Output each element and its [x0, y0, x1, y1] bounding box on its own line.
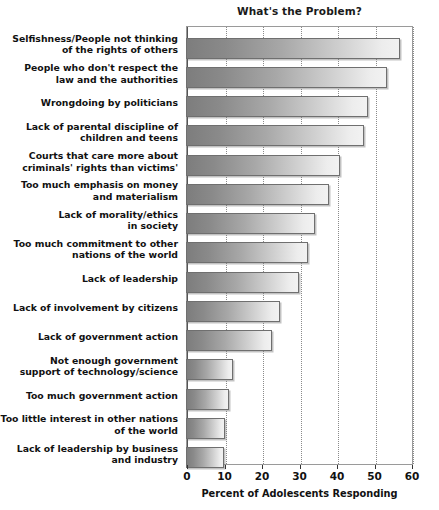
x-tick-mark: [337, 465, 338, 469]
category-label-line: children and teens: [0, 132, 178, 144]
category-label-line: Too little interest in other nations: [0, 413, 178, 425]
category-label: Selfishness/People not thinkingof the ri…: [0, 33, 182, 56]
category-label-line: Too much emphasis on money: [0, 179, 178, 191]
bar: [186, 301, 280, 322]
category-label: Too much commitment to othernations of t…: [0, 238, 182, 261]
x-tick-mark: [225, 465, 226, 469]
category-label-line: Too much government action: [0, 390, 178, 402]
category-label: Lack of leadership by businessand indust…: [0, 443, 182, 466]
bar: [186, 330, 272, 351]
category-label-line: of the world: [0, 425, 178, 437]
category-label: Lack of parental discipline ofchildren a…: [0, 121, 182, 144]
category-label-line: law and the authorities: [0, 74, 178, 86]
category-label-line: Selfishness/People not thinking: [0, 33, 178, 45]
bar-row: [186, 268, 413, 297]
bar: [186, 184, 329, 205]
bar: [186, 418, 225, 439]
bar-row: [186, 151, 413, 180]
bar-row: [186, 326, 413, 355]
x-tick-label: 50: [360, 470, 390, 482]
category-label-line: Lack of leadership: [0, 273, 178, 285]
category-label: Courts that care more aboutcriminals' ri…: [0, 150, 182, 173]
bar-row: [186, 92, 413, 121]
bars-layer: [186, 26, 413, 465]
bar: [186, 242, 308, 263]
category-label-line: in society: [0, 220, 178, 232]
category-label-line: Courts that care more about: [0, 150, 178, 162]
category-label-line: and industry: [0, 454, 178, 466]
category-label-line: criminals' rights than victims': [0, 162, 178, 174]
bar: [186, 67, 387, 88]
category-label: Too much emphasis on moneyand materialis…: [0, 179, 182, 202]
category-label: Lack of morality/ethicsin society: [0, 209, 182, 232]
x-axis: 0102030405060: [186, 465, 413, 487]
gridline-60: [413, 27, 414, 464]
bar-row: [186, 297, 413, 326]
x-tick-label: 10: [210, 470, 240, 482]
category-label: Too little interest in other nationsof t…: [0, 413, 182, 436]
category-label: Too much government action: [0, 390, 182, 402]
category-label-line: Lack of leadership by business: [0, 443, 178, 455]
category-label-line: Not enough government: [0, 355, 178, 367]
category-label: Lack of government action: [0, 331, 182, 343]
x-tick-mark: [262, 465, 263, 469]
x-tick-mark: [412, 465, 413, 469]
bar-row: [186, 121, 413, 150]
x-tick-mark: [187, 465, 188, 469]
category-label: People who don't respect thelaw and the …: [0, 62, 182, 85]
category-label-line: of the rights of others: [0, 44, 178, 56]
category-label-line: Lack of government action: [0, 331, 178, 343]
category-label-line: and materialism: [0, 191, 178, 203]
bar-chart: What's the Problem? Selfishness/People n…: [0, 0, 439, 510]
category-labels: Selfishness/People not thinkingof the ri…: [0, 26, 182, 465]
bar: [186, 389, 229, 410]
bar-row: [186, 355, 413, 384]
bar-row: [186, 34, 413, 63]
x-tick-mark: [375, 465, 376, 469]
x-tick-label: 60: [397, 470, 427, 482]
category-label-line: Wrongdoing by politicians: [0, 97, 178, 109]
bar: [186, 96, 368, 117]
x-tick-label: 30: [285, 470, 315, 482]
bar-row: [186, 385, 413, 414]
x-axis-title: Percent of Adolescents Responding: [186, 488, 413, 499]
category-label-line: support of technology/science: [0, 366, 178, 378]
category-label-line: Too much commitment to other: [0, 238, 178, 250]
category-label-line: Lack of morality/ethics: [0, 209, 178, 221]
bar-row: [186, 238, 413, 267]
bar-row: [186, 63, 413, 92]
category-label: Wrongdoing by politicians: [0, 97, 182, 109]
category-label-line: People who don't respect the: [0, 62, 178, 74]
bar: [186, 38, 400, 59]
category-label: Lack of involvement by citizens: [0, 302, 182, 314]
category-label-line: Lack of involvement by citizens: [0, 302, 178, 314]
x-tick-label: 0: [172, 470, 202, 482]
chart-title: What's the Problem?: [186, 5, 413, 17]
category-label: Not enough governmentsupport of technolo…: [0, 355, 182, 378]
category-label: Lack of leadership: [0, 273, 182, 285]
bar: [186, 125, 364, 146]
x-tick-label: 40: [322, 470, 352, 482]
x-tick-label: 20: [247, 470, 277, 482]
bar: [186, 155, 340, 176]
category-label-line: Lack of parental discipline of: [0, 121, 178, 133]
bar-row: [186, 209, 413, 238]
bar-row: [186, 414, 413, 443]
bar: [186, 359, 233, 380]
x-tick-mark: [300, 465, 301, 469]
category-label-line: nations of the world: [0, 249, 178, 261]
bar: [186, 272, 299, 293]
bar: [186, 213, 315, 234]
bar-row: [186, 180, 413, 209]
